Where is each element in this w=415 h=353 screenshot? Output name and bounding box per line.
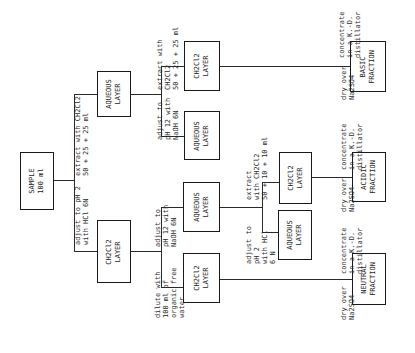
connector (131, 251, 161, 252)
step-label-adjust-ph: adjust topH 12 withNaOH 6N (140, 98, 188, 140)
step-label-dry: dry overNa2SO4 (324, 66, 364, 100)
step-label-adjust-ph: adjust topH 2with HCl6 N (229, 226, 285, 264)
aqueous-layer-box: AQUEOUSLAYER (184, 111, 220, 160)
ch2cl2-layer-box: CH2Cl2LAYER (184, 41, 220, 91)
step-label-concentrate: concentratein a K.-D.distillator (324, 124, 372, 170)
step-label-dilute: dilute with100 ml oforganic freewater (138, 267, 194, 318)
step-label-adjust-ph: adjust to pH 2with HCl 6N (58, 186, 98, 245)
step-label-adjust-ph: adjust topH 12 withNaOH 6N (138, 205, 186, 247)
step-label-concentrate: concentratein a K.-D.distillator (324, 228, 372, 274)
step-label-dry: dry overNa2SO4 (324, 178, 364, 212)
connector (131, 94, 161, 95)
aqueous-layer-box: AQUEOUSLAYER (97, 71, 131, 117)
step-label-extract: extractwith CH2Cl250 + 10 + 10 ml (229, 137, 277, 200)
connector (74, 94, 97, 95)
step-label-concentrate: concentratein a K.-D.distillator (322, 12, 370, 58)
ch2cl2-layer-box: CH2Cl2LAYER (279, 152, 312, 204)
sample-box: SAMPLE100 ml (20, 152, 54, 210)
step-label-dry: dry overNa2SO4 (324, 286, 364, 320)
connector (54, 180, 74, 181)
step-label-extract: extract with CH2Cl250 + 25 + 25 ml (58, 96, 98, 176)
connector (220, 279, 352, 280)
step-label-extract: extract withCH2Cl250 + 25 + 25 ml (140, 27, 188, 90)
aqueous-layer-box: AQUEOUSLAYER (183, 182, 220, 232)
connector (74, 251, 97, 252)
connector (220, 207, 262, 208)
ch2cl2-layer-box: CH2Cl2LAYER (97, 220, 131, 283)
